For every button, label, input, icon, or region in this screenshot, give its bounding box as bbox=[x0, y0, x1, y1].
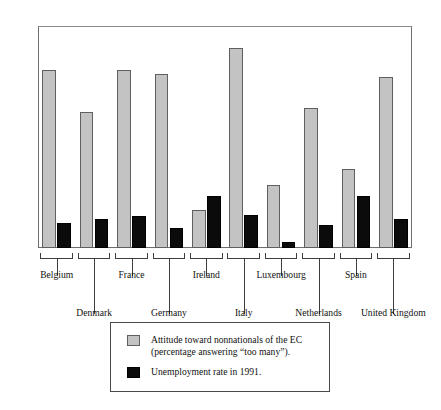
bar-unemployment-spain bbox=[357, 196, 371, 248]
category-axis-labels: BelgiumDenmarkFranceGermanyIrelandItalyL… bbox=[0, 248, 441, 323]
category-leader-line bbox=[94, 259, 95, 314]
bar-group bbox=[75, 26, 112, 248]
bar-group bbox=[262, 26, 299, 248]
bar-unemployment-belgium bbox=[57, 223, 71, 248]
bar-group bbox=[150, 26, 187, 248]
legend-label: Unemployment rate in 1991. bbox=[151, 366, 261, 378]
legend-swatch-black bbox=[127, 367, 140, 378]
bar-attitude-germany bbox=[155, 74, 169, 248]
category-label-france: France bbox=[118, 270, 144, 280]
bar-unemployment-italy bbox=[244, 215, 258, 248]
bar-attitude-spain bbox=[342, 169, 356, 248]
bar-group bbox=[188, 26, 225, 248]
bar-attitude-france bbox=[117, 70, 131, 248]
bar-group bbox=[375, 26, 412, 248]
legend-item: Unemployment rate in 1991. bbox=[127, 366, 323, 378]
bar-chart-figure: 010203040506070 BelgiumDenmarkFranceGerm… bbox=[0, 0, 441, 410]
bar-attitude-ireland bbox=[192, 210, 206, 248]
category-leader-line bbox=[319, 259, 320, 314]
bar-unemployment-denmark bbox=[95, 219, 109, 248]
bar-unemployment-united-kingdom bbox=[394, 219, 408, 248]
bar-unemployment-netherlands bbox=[319, 225, 333, 248]
bar-attitude-italy bbox=[229, 48, 243, 248]
legend-label: Attitude toward nonnationals of the EC (… bbox=[151, 334, 302, 357]
category-label-italy: Italy bbox=[235, 308, 253, 318]
category-label-denmark: Denmark bbox=[76, 308, 112, 318]
bar-group bbox=[300, 26, 337, 248]
bar-group bbox=[337, 26, 374, 248]
category-leader-line bbox=[393, 259, 394, 314]
category-label-germany: Germany bbox=[151, 308, 187, 318]
legend-swatch-grey bbox=[127, 335, 140, 346]
bar-attitude-belgium bbox=[42, 70, 56, 248]
bar-unemployment-germany bbox=[170, 228, 184, 248]
bar-attitude-netherlands bbox=[304, 108, 318, 248]
bar-attitude-united-kingdom bbox=[379, 77, 393, 248]
bar-group bbox=[225, 26, 262, 248]
bar-attitude-denmark bbox=[80, 112, 94, 248]
category-label-belgium: Belgium bbox=[40, 270, 73, 280]
legend-item: Attitude toward nonnationals of the EC (… bbox=[127, 334, 323, 357]
bars-layer bbox=[38, 26, 412, 248]
category-label-netherlands: Netherlands bbox=[295, 308, 341, 318]
legend: Attitude toward nonnationals of the EC (… bbox=[110, 322, 330, 392]
category-leader-line bbox=[244, 259, 245, 314]
category-label-ireland: Ireland bbox=[193, 270, 220, 280]
bar-group bbox=[113, 26, 150, 248]
category-leader-line bbox=[169, 259, 170, 314]
y-axis: 010203040506070 bbox=[0, 0, 38, 248]
bar-unemployment-france bbox=[132, 216, 146, 248]
bar-unemployment-ireland bbox=[207, 196, 221, 248]
bar-group bbox=[38, 26, 75, 248]
category-label-united-kingdom: United Kingdom bbox=[361, 308, 426, 318]
category-label-spain: Spain bbox=[345, 270, 367, 280]
category-label-luxembourg: Luxembourg bbox=[256, 270, 305, 280]
bar-attitude-luxembourg bbox=[267, 185, 281, 248]
